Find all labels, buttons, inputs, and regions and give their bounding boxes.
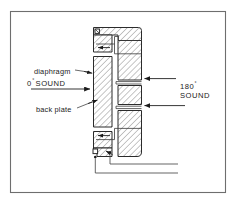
label-diaphragm: diaphragm xyxy=(34,67,71,76)
channel-outline-mid-upper xyxy=(116,82,142,84)
label-front-sound-word: SOUND xyxy=(36,79,66,88)
diaphragm-leader-arrow xyxy=(84,71,92,73)
upper-clamp-block xyxy=(94,35,113,52)
label-rear-sound-word: SOUND xyxy=(180,91,210,100)
channel-outline-mid-lower xyxy=(116,106,142,108)
microphone-cross-section-svg: diaphragm back plate 0 ° SOUND 180 ° SOU… xyxy=(0,0,237,205)
figure-canvas: diaphragm back plate 0 ° SOUND 180 ° SOU… xyxy=(0,0,237,205)
bottom-terminal-pad xyxy=(93,149,98,154)
label-front-sound-value: 0 xyxy=(27,79,32,88)
lead-wire-2 xyxy=(95,158,178,173)
diaphragm-backplate-slab xyxy=(94,57,113,128)
label-rear-sound-value: 180 xyxy=(180,82,194,91)
label-front-sound: 0 ° SOUND xyxy=(27,77,66,88)
terminal-dot-1 xyxy=(94,156,97,159)
label-rear-sound: 180 ° SOUND xyxy=(180,80,210,101)
housing-right-wall-upper xyxy=(118,41,142,81)
label-back-plate: back plate xyxy=(36,105,72,114)
label-rear-sound-degree: ° xyxy=(194,80,196,86)
housing-right-wall-lower xyxy=(118,111,142,157)
housing-right-wall-middle xyxy=(118,86,142,105)
label-front-sound-degree: ° xyxy=(32,77,34,83)
